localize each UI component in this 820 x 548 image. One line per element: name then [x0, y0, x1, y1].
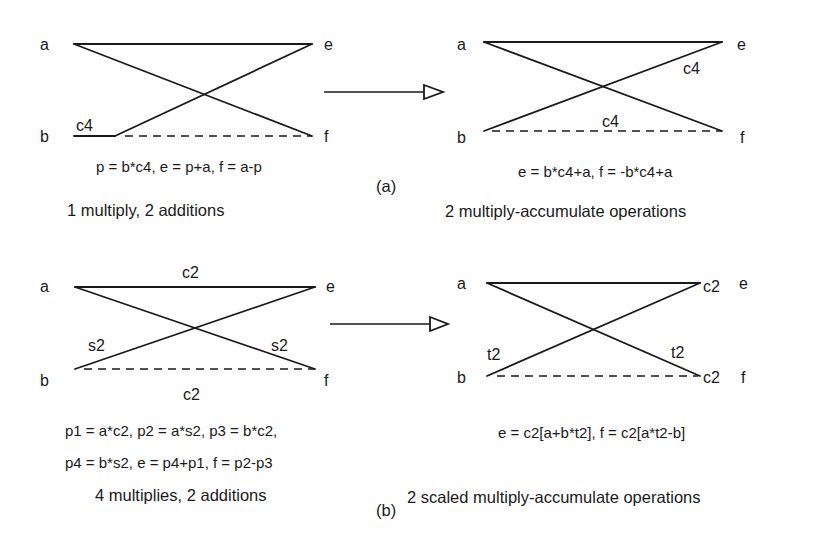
- arrow-head-icon: [424, 85, 443, 99]
- node-b: b: [40, 372, 49, 389]
- cost-a-right: 2 multiply-accumulate operations: [445, 202, 686, 220]
- equation-a-left: p = b*c4, e = p+a, f = a-p: [96, 158, 262, 175]
- edge-b-e: [115, 44, 312, 136]
- equation-b-left-line2: p4 = b*s2, e = p4+p1, f = p2-p3: [65, 454, 273, 471]
- node-a: a: [457, 275, 466, 292]
- butterfly-diagram-figure: a b e f c4 p = b*c4, e = p+a, f = a-p 1 …: [0, 0, 820, 548]
- node-e: e: [324, 36, 333, 53]
- node-a: a: [40, 36, 49, 53]
- node-f: f: [324, 372, 329, 389]
- transform-arrow-a: [324, 85, 443, 99]
- part-a-left-butterfly: a b e f c4 p = b*c4, e = p+a, f = a-p 1 …: [40, 36, 333, 219]
- node-e: e: [737, 36, 746, 53]
- scale-label-c2-bottom: c2: [703, 369, 720, 386]
- node-f: f: [741, 369, 746, 386]
- edge-label-c4-bottom: c4: [602, 113, 619, 130]
- node-b: b: [457, 369, 466, 386]
- scale-label-c2-top: c2: [703, 278, 720, 295]
- node-f: f: [740, 129, 745, 146]
- edge-a-f: [74, 44, 312, 136]
- edge-label-c4-diag: c4: [683, 60, 700, 77]
- edge-label-c2-bottom: c2: [183, 386, 200, 403]
- node-b: b: [457, 129, 466, 146]
- edge-label-s2-left: s2: [88, 337, 105, 354]
- transform-arrow-b: [330, 317, 448, 331]
- part-b-left-butterfly: a b e f c2 s2 s2 c2 p1 = a*c2, p2 = a*s2…: [40, 264, 335, 504]
- edge-label-c4: c4: [76, 117, 93, 134]
- part-b-label: (b): [376, 501, 396, 519]
- equation-b-right: e = c2[a+b*t2], f = c2[a*t2-b]: [498, 424, 685, 441]
- equation-b-left-line1: p1 = a*c2, p2 = a*s2, p3 = b*c2,: [65, 422, 277, 439]
- node-e: e: [739, 275, 748, 292]
- edge-label-s2-right: s2: [271, 337, 288, 354]
- edge-label-c2-top: c2: [182, 264, 199, 281]
- part-b-right-butterfly: a b e f c2 c2 t2 t2 e = c2[a+b*t2], f = …: [407, 275, 748, 506]
- equation-a-right: e = b*c4+a, f = -b*c4+a: [518, 163, 673, 180]
- arrow-head-icon: [430, 317, 448, 331]
- edge-label-t2-left: t2: [487, 346, 500, 363]
- node-e: e: [326, 278, 335, 295]
- node-a: a: [40, 278, 49, 295]
- edge-label-t2-right: t2: [671, 344, 684, 361]
- cost-b-right: 2 scaled multiply-accumulate operations: [407, 488, 700, 506]
- node-b: b: [40, 128, 49, 145]
- cost-a-left: 1 multiply, 2 additions: [67, 201, 224, 219]
- part-a-right-butterfly: a b e f c4 c4 e = b*c4+a, f = -b*c4+a 2 …: [445, 36, 746, 220]
- part-a-label: (a): [376, 177, 396, 195]
- node-a: a: [457, 36, 466, 53]
- cost-b-left: 4 multiplies, 2 additions: [95, 486, 267, 504]
- node-f: f: [324, 128, 329, 145]
